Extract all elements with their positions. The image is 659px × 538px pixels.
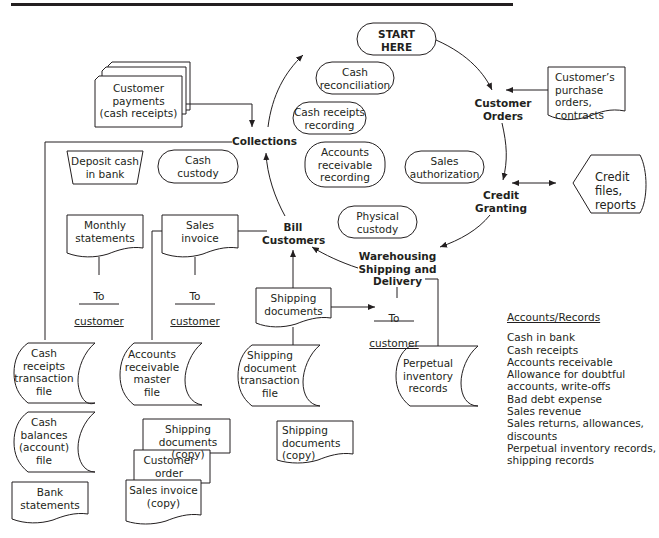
ar-recording-label: Accounts receivable recording bbox=[305, 146, 385, 184]
arrow-credit-to-warehouse bbox=[440, 215, 490, 247]
arrow-start-to-orders bbox=[436, 40, 492, 90]
to-customer-monthly: To customer bbox=[69, 277, 129, 327]
cash-receipts-file-label: Cash receipts transaction file bbox=[14, 347, 74, 397]
cash-receipts-recording-label: Cash receipts recording bbox=[293, 106, 366, 131]
cash-reconciliation-label: Cash reconciliation bbox=[316, 66, 394, 91]
records-item: Sales revenue bbox=[507, 405, 656, 417]
shipping-transaction-file-label: Shipping document transaction file bbox=[238, 349, 302, 399]
customer-orders-label: Customer Orders bbox=[468, 97, 538, 122]
bank-statements-label: Bank statements bbox=[12, 486, 88, 511]
deposit-cash-label: Deposit cash in bank bbox=[67, 155, 143, 180]
arrow-payments-to-collections bbox=[186, 104, 252, 127]
monthly-statements-label: Monthly statements bbox=[67, 219, 143, 244]
purchase-orders-label: Customer’s purchase orders, contracts bbox=[555, 71, 635, 121]
arrow-bill-to-collections bbox=[266, 153, 285, 216]
warehousing-label: Warehousing Shipping and Delivery bbox=[355, 250, 440, 288]
records-item: Bad debt expense bbox=[507, 393, 656, 405]
title-rule-right bbox=[11, 3, 513, 6]
to-customer-invoice: To customer bbox=[165, 277, 225, 327]
ar-master-file-label: Accounts receivable master file bbox=[120, 348, 184, 398]
bill-customers-label: Bill Customers bbox=[262, 221, 324, 246]
sales-invoice-copy-label: Sales invoice (copy) bbox=[126, 484, 201, 509]
physical-custody-label: Physical custody bbox=[338, 210, 417, 235]
accounts-records-panel: Accounts/Records Cash in bank Cash recei… bbox=[507, 311, 656, 467]
customer-order-label: Customer order bbox=[134, 454, 204, 479]
to-customer-shipping: To customer bbox=[364, 299, 424, 349]
arrow-orders-to-credit bbox=[502, 123, 506, 180]
credit-granting-label: Credit Granting bbox=[466, 189, 536, 214]
arrow-warehouse-to-bill bbox=[312, 247, 358, 268]
credit-files-label: Credit files, reports bbox=[595, 170, 655, 212]
collections-label: Collections bbox=[232, 135, 294, 148]
shipping-documents-label: Shipping documents bbox=[256, 292, 331, 317]
records-item: Perpetual inventory records, shipping re… bbox=[507, 442, 656, 467]
customer-payments-label: Customer payments (cash receipts) bbox=[95, 82, 182, 120]
accounts-records-heading: Accounts/Records bbox=[507, 311, 656, 323]
cash-custody-label: Cash custody bbox=[158, 154, 238, 179]
records-item: Allowance for doubtful accounts, write-o… bbox=[507, 368, 656, 393]
records-item: Sales returns, allowances, discounts bbox=[507, 417, 656, 442]
sales-authorization-label: Sales authorization bbox=[405, 155, 484, 180]
perpetual-inventory-label: Perpetual inventory records bbox=[396, 357, 460, 395]
records-item: Cash receipts bbox=[507, 344, 656, 356]
sales-invoice-label: Sales invoice bbox=[162, 219, 238, 244]
start-here-label: START HERE bbox=[357, 28, 436, 53]
cash-balances-file-label: Cash balances (account) file bbox=[14, 416, 74, 466]
records-item: Cash in bank bbox=[507, 331, 656, 343]
records-item: Accounts receivable bbox=[507, 356, 656, 368]
shipping-docs-copy-b-label: Shipping documents (copy) bbox=[282, 424, 354, 462]
